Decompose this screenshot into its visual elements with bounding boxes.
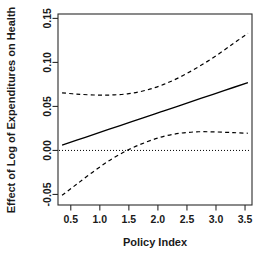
- x-tick-label: 2.0: [151, 213, 166, 225]
- x-tick-label: 1.0: [93, 213, 108, 225]
- x-tick-label: 3.5: [238, 213, 253, 225]
- x-axis-title: Policy Index: [123, 236, 188, 248]
- y-tick-label: -0.05: [41, 182, 53, 206]
- x-tick-label: 0.5: [63, 213, 78, 225]
- x-tick-label: 1.5: [122, 213, 137, 225]
- y-axis-title: Effect of Log of Expenditures on Health: [5, 6, 17, 213]
- x-tick-label: 3.0: [209, 213, 224, 225]
- y-tick-label: 0.00: [41, 140, 53, 161]
- y-tick-label: 0.05: [41, 96, 53, 117]
- chart-canvas: 0.51.01.52.02.53.03.5-0.050.000.050.100.…: [0, 0, 265, 260]
- y-tick-label: 0.10: [41, 52, 53, 73]
- y-tick-label: 0.15: [41, 8, 53, 29]
- x-tick-label: 2.5: [180, 213, 195, 225]
- chart-figure: 0.51.01.52.02.53.03.5-0.050.000.050.100.…: [0, 0, 265, 260]
